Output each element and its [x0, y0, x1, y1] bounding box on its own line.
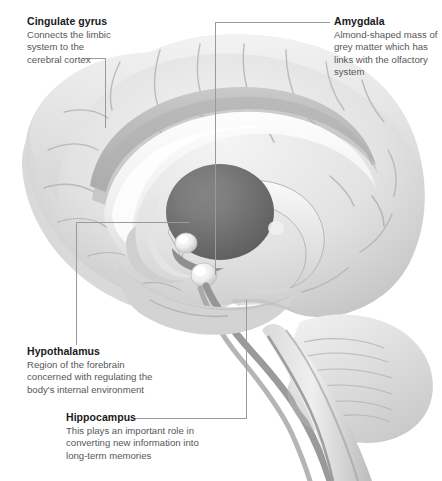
callout-title-hippocampus: Hippocampus	[66, 411, 199, 424]
leader-line-hypothalamus	[77, 223, 191, 346]
callout-line: Region of the forebrain	[27, 359, 152, 371]
callout-body-hippocampus: This plays an important role in converti…	[66, 425, 199, 462]
callout-amygdala: Amygdala Almond-shaped mass of grey matt…	[334, 15, 437, 79]
leader-line-amygdala	[216, 23, 331, 276]
callout-line: grey matter which has	[334, 41, 437, 53]
callout-title-amygdala: Amygdala	[334, 15, 437, 28]
callout-hippocampus: Hippocampus This plays an important role…	[66, 411, 199, 462]
callout-line: Connects the limbic	[27, 29, 111, 41]
callout-hypothalamus: Hypothalamus Region of the forebrain con…	[27, 345, 152, 396]
callout-title-hypothalamus: Hypothalamus	[27, 345, 152, 358]
leader-line-cingulate	[82, 59, 106, 129]
callout-body-amygdala: Almond-shaped mass of grey matter which …	[334, 29, 437, 79]
callout-line: converting new information into	[66, 437, 199, 449]
callout-line: long-term memories	[66, 450, 199, 462]
callout-line: system to the	[27, 41, 111, 53]
callout-body-cingulate: Connects the limbic system to the cerebr…	[27, 29, 111, 66]
callout-line: concerned with regulating the	[27, 371, 152, 383]
callout-line: This plays an important role in	[66, 425, 199, 437]
callout-line: body's internal environment	[27, 384, 152, 396]
callout-cingulate-gyrus: Cingulate gyrus Connects the limbic syst…	[27, 15, 111, 66]
diagram-canvas: Cingulate gyrus Connects the limbic syst…	[0, 0, 442, 481]
callout-line: system	[334, 66, 437, 78]
callout-line: links with the olfactory	[334, 54, 437, 66]
callout-title-cingulate: Cingulate gyrus	[27, 15, 111, 28]
callout-line: Almond-shaped mass of	[334, 29, 437, 41]
callout-line: cerebral cortex	[27, 54, 111, 66]
callout-body-hypothalamus: Region of the forebrain concerned with r…	[27, 359, 152, 396]
